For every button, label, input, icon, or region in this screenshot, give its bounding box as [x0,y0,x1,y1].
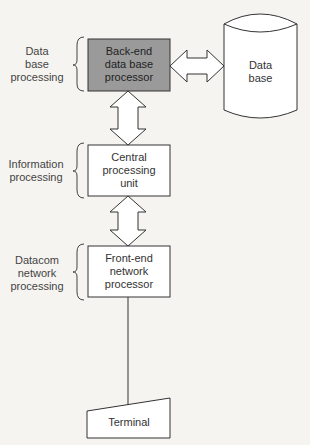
double-arrow-icon [110,196,146,246]
label-line: processing [4,71,70,84]
frontend-processor-label: Front-end network processor [88,252,170,291]
label-line: processing [4,280,70,293]
label-line: base [224,72,297,85]
database-label: Data base [224,59,297,85]
label-line: unit [88,177,170,190]
backend-processor-label: Back-end data base processor [88,45,170,84]
label-line: Front-end [88,252,170,265]
label-line: base [4,58,70,71]
label-line: data base [88,58,170,71]
brace-icon [73,244,84,300]
terminal-label: Terminal [88,416,170,429]
label-line: Data [4,45,70,58]
label-line: Terminal [88,416,170,429]
label-line: processor [88,71,170,84]
label-line: processing [88,164,170,177]
brace-icon [73,143,84,198]
label-datacom-network-processing: Datacom network processing [4,254,70,293]
label-data-base-processing: Data base processing [4,45,70,84]
double-arrow-icon [170,50,224,82]
label-line: Information [2,158,70,171]
label-line: Back-end [88,45,170,58]
label-line: network [88,265,170,278]
brace-icon [73,37,84,91]
label-line: processor [88,278,170,291]
label-line: Central [88,151,170,164]
label-line: processing [2,171,70,184]
label-line: network [4,267,70,280]
label-line: Data [224,59,297,72]
label-line: Datacom [4,254,70,267]
double-arrow-icon [110,91,146,145]
cpu-label: Central processing unit [88,151,170,190]
label-information-processing: Information processing [2,158,70,184]
